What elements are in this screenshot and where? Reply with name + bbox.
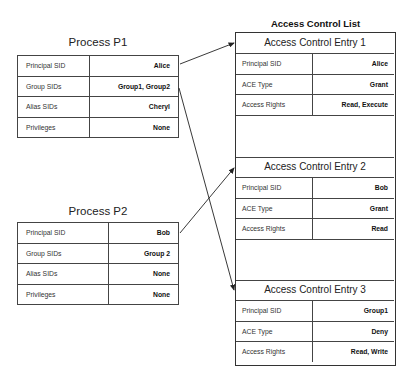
- diagram: Process P1 Principal SIDAlice Group SIDs…: [0, 0, 413, 377]
- arrows: [0, 0, 413, 377]
- arrow-p1-group-to-ace3: [179, 88, 234, 290]
- arrow-p1-alice-to-ace1: [180, 43, 234, 64]
- arrow-p2-bob-to-ace2: [180, 168, 234, 233]
